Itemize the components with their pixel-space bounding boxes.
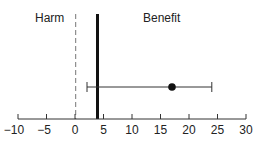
confidence-interval [87, 82, 212, 92]
x-tick-label: 25 [211, 123, 225, 137]
forest-plot: Harm Benefit −10 −5 0 5 10 15 20 25 30 [0, 0, 263, 145]
x-tick-label: 15 [154, 123, 168, 137]
harm-label: Harm [35, 11, 64, 25]
benefit-label: Benefit [143, 11, 181, 25]
x-tick-label: 10 [125, 123, 139, 137]
x-tick-label: 5 [100, 123, 107, 137]
x-tick-label: −5 [37, 123, 51, 137]
x-tick-label: 30 [239, 123, 253, 137]
x-axis: −10 −5 0 5 10 15 20 25 30 [4, 114, 253, 137]
x-tick-label: 0 [72, 123, 79, 137]
point-estimate-marker [168, 83, 176, 91]
x-tick-label: −10 [4, 123, 25, 137]
x-tick-label: 20 [182, 123, 196, 137]
